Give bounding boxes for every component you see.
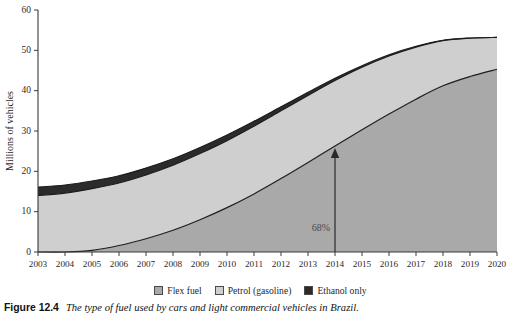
- x-tick-label: 2003: [29, 259, 48, 269]
- x-tick-label: 2018: [434, 259, 453, 269]
- caption-text: The type of fuel used by cars and light …: [66, 302, 359, 313]
- x-tick-label: 2019: [461, 259, 480, 269]
- y-tick-label: 10: [22, 206, 32, 216]
- figure-container: 68% 0102030405060 2003200420052006200720…: [0, 0, 521, 321]
- x-tick-label: 2020: [488, 259, 507, 269]
- chart-legend: Flex fuelPetrol (gasoline)Ethanol only: [0, 282, 521, 298]
- x-tick-label: 2011: [245, 259, 263, 269]
- x-tick-label: 2013: [299, 259, 318, 269]
- legend-item: Ethanol only: [304, 285, 366, 296]
- legend-swatch-icon: [215, 286, 224, 295]
- x-tick-label: 2009: [191, 259, 210, 269]
- y-tick-label: 30: [22, 126, 32, 136]
- x-tick-label: 2008: [164, 259, 183, 269]
- caption-number: Figure 12.4: [4, 302, 59, 313]
- x-tick-label: 2012: [272, 259, 291, 269]
- y-axis-title: Millions of vehicles: [4, 91, 15, 171]
- x-tick-label: 2015: [353, 259, 372, 269]
- x-tick-label: 2007: [137, 259, 156, 269]
- legend-swatch-icon: [304, 286, 313, 295]
- x-tick-label: 2010: [218, 259, 237, 269]
- y-tick-label: 50: [22, 45, 32, 55]
- figure-caption: Figure 12.4 The type of fuel used by car…: [4, 302, 518, 313]
- x-tick-label: 2014: [326, 259, 345, 269]
- callout-label: 68%: [312, 222, 330, 233]
- y-tick-label: 60: [22, 5, 32, 15]
- legend-item: Petrol (gasoline): [215, 285, 292, 296]
- legend-label: Ethanol only: [317, 285, 366, 296]
- legend-item: Flex fuel: [154, 285, 201, 296]
- y-tick-label: 20: [22, 166, 32, 176]
- y-tick-label: 40: [22, 85, 32, 95]
- legend-label: Flex fuel: [167, 285, 201, 296]
- x-tick-label: 2016: [380, 259, 399, 269]
- x-tick-label: 2004: [56, 259, 75, 269]
- stacked-area-chart: 68% 0102030405060 2003200420052006200720…: [0, 0, 521, 282]
- y-tick-label: 0: [26, 247, 31, 257]
- x-tick-label: 2005: [83, 259, 102, 269]
- chart-areas: [38, 37, 497, 252]
- legend-swatch-icon: [154, 286, 163, 295]
- legend-label: Petrol (gasoline): [228, 285, 292, 296]
- y-tick-group: 0102030405060: [22, 5, 39, 257]
- x-tick-label: 2006: [110, 259, 129, 269]
- x-tick-group: 2003200420052006200720082009201020112012…: [29, 252, 507, 269]
- x-tick-label: 2017: [407, 259, 426, 269]
